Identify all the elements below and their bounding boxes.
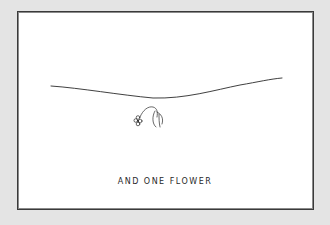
flower-icon bbox=[134, 107, 163, 127]
line-drawing bbox=[0, 0, 330, 225]
horizon-line bbox=[51, 78, 282, 98]
caption-text: AND ONE FLOWER bbox=[0, 177, 330, 186]
illustration-stage: AND ONE FLOWER bbox=[0, 0, 330, 225]
